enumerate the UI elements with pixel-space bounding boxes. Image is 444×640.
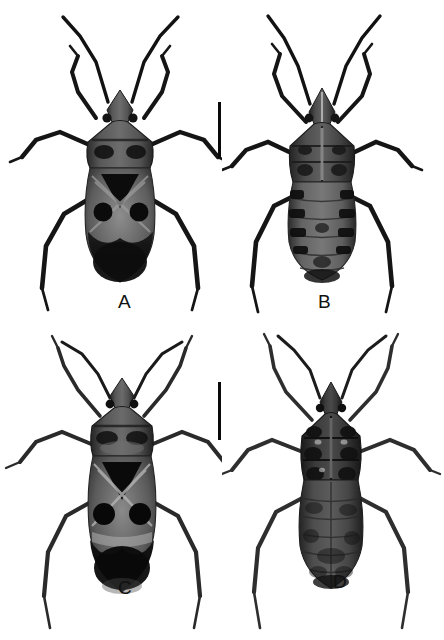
panel-label-d: D (333, 572, 347, 591)
legs-right (350, 334, 440, 628)
pronotum (87, 121, 153, 169)
panel-b: B (222, 0, 444, 320)
specimen-d-ventral (222, 320, 444, 640)
spot-right (129, 503, 151, 525)
scale-bar-top (218, 102, 221, 158)
legs-left (222, 334, 312, 628)
legs-left (6, 336, 100, 628)
spot-right (130, 203, 149, 222)
specimen-a-dorsal (0, 0, 222, 320)
head (320, 382, 342, 416)
panel-a: A (0, 0, 222, 320)
spot-left (93, 503, 115, 525)
spot-left (94, 203, 113, 222)
scale-bar-bottom (218, 382, 221, 440)
panel-label-c: C (118, 578, 132, 597)
specimen-b-ventral (222, 0, 444, 320)
legs-right (144, 46, 222, 310)
panel-d: D (222, 320, 444, 640)
panel-label-a: A (118, 292, 131, 311)
panel-c: C (0, 320, 222, 640)
specimen-c-dorsal (0, 320, 222, 640)
figure-plate: A (0, 0, 444, 640)
legs-right (144, 336, 222, 628)
legs-left (10, 46, 96, 310)
panel-label-b: B (318, 292, 331, 311)
